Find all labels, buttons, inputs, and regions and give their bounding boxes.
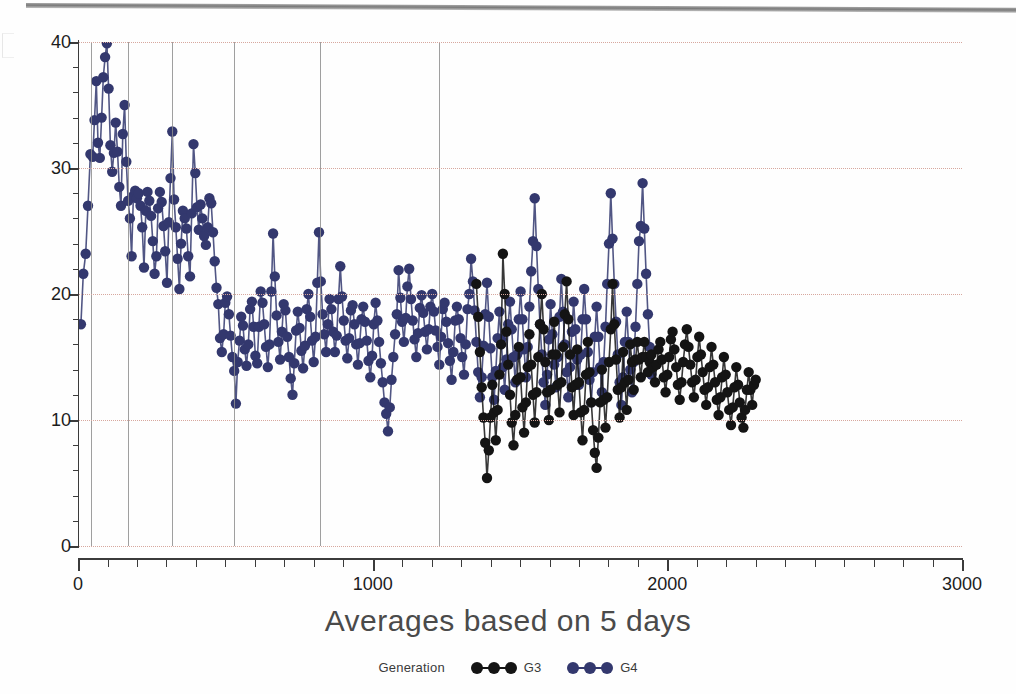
data-point — [365, 372, 375, 382]
y-tick-minor — [73, 143, 79, 144]
data-point — [641, 269, 651, 279]
data-point — [342, 353, 352, 363]
horizontal-gridline-2 — [78, 294, 962, 295]
y-tick-minor — [73, 319, 79, 320]
data-point — [103, 83, 113, 93]
data-point — [639, 223, 649, 233]
y-tick-minor — [73, 470, 79, 471]
data-point — [210, 256, 220, 266]
data-point — [441, 317, 451, 327]
data-point — [259, 319, 269, 329]
data-point — [452, 301, 462, 311]
data-point — [622, 405, 632, 415]
legend-entry-g4[interactable]: G4 — [567, 660, 637, 675]
data-point — [572, 344, 582, 354]
data-point — [475, 392, 485, 402]
data-point — [78, 319, 86, 329]
y-tick-minor — [73, 269, 79, 270]
horizontal-gridline-3 — [78, 168, 962, 169]
legend-swatch-g3 — [471, 662, 517, 674]
data-point — [360, 317, 370, 327]
data-point — [378, 377, 388, 387]
y-tick-label: 0 — [61, 536, 71, 557]
data-point — [466, 254, 476, 264]
data-point — [142, 187, 152, 197]
data-point — [477, 382, 487, 392]
data-point — [591, 463, 601, 473]
data-point — [376, 358, 386, 368]
data-point — [471, 279, 481, 289]
data-point — [155, 187, 165, 197]
x-tick-minor — [874, 560, 875, 567]
y-tick-major — [70, 420, 79, 422]
data-point — [241, 361, 251, 371]
y-tick-major — [70, 42, 79, 44]
data-point — [514, 342, 524, 352]
scatter-line-chart: 010203040 0100020003000 Averages based o… — [0, 0, 1016, 694]
data-point — [484, 445, 494, 455]
data-point — [197, 213, 207, 223]
data-point — [634, 236, 644, 246]
x-tick-minor — [166, 560, 167, 567]
data-point — [682, 324, 692, 334]
data-point — [374, 337, 384, 347]
data-point — [372, 315, 382, 325]
data-point — [125, 213, 135, 223]
data-point — [96, 112, 106, 122]
x-tick-minor — [756, 560, 757, 567]
data-point — [305, 312, 315, 322]
data-point — [263, 362, 273, 372]
data-point — [607, 233, 617, 243]
data-point — [662, 369, 672, 379]
x-tick-minor — [697, 560, 698, 567]
figure-page: 010203040 0100020003000 Averages based o… — [0, 0, 1016, 694]
data-point — [370, 298, 380, 308]
data-point — [247, 296, 257, 306]
data-point — [270, 271, 280, 281]
y-tick-label: 20 — [51, 284, 71, 305]
data-point — [660, 387, 670, 397]
data-point — [508, 440, 518, 450]
data-point — [385, 402, 395, 412]
x-tick-minor — [108, 560, 109, 567]
data-point — [492, 405, 502, 415]
data-point — [683, 342, 693, 352]
x-tick-minor — [844, 560, 845, 567]
data-point — [432, 342, 442, 352]
data-point — [383, 426, 393, 436]
y-tick-minor — [73, 244, 79, 245]
y-tick-minor — [73, 521, 79, 522]
data-point — [157, 197, 167, 207]
data-point — [574, 377, 584, 387]
data-point — [701, 400, 711, 410]
data-point — [526, 266, 536, 276]
data-point — [324, 294, 334, 304]
data-point — [224, 309, 234, 319]
data-point — [386, 375, 396, 385]
y-tick-minor — [73, 370, 79, 371]
data-point — [491, 435, 501, 445]
data-point — [643, 309, 653, 319]
data-point — [669, 344, 679, 354]
legend-entry-g3[interactable]: G3 — [471, 660, 541, 675]
x-tick-minor — [520, 560, 521, 567]
data-point — [530, 417, 540, 427]
data-point — [675, 395, 685, 405]
data-point — [632, 279, 642, 289]
data-point — [93, 138, 103, 148]
data-point — [165, 173, 175, 183]
data-point — [538, 324, 548, 334]
x-tick-minor — [461, 560, 462, 567]
data-point — [335, 261, 345, 271]
data-point — [287, 390, 297, 400]
data-point — [501, 327, 511, 337]
data-point — [169, 194, 179, 204]
data-point — [293, 306, 303, 316]
data-point — [183, 251, 193, 261]
y-tick-minor — [73, 218, 79, 219]
data-point — [286, 373, 296, 383]
data-point — [134, 188, 144, 198]
y-tick-minor — [73, 395, 79, 396]
x-tick-minor — [491, 560, 492, 567]
data-point — [118, 129, 128, 139]
